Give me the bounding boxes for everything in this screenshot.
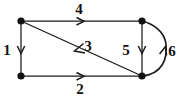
- vertex-bottom-left: [17, 72, 24, 79]
- edge-label-4: 4: [75, 2, 83, 17]
- edge-label-2: 2: [76, 82, 84, 97]
- vertex-top-right: [138, 17, 145, 24]
- edge-label-5: 5: [122, 43, 130, 58]
- vertex-top-left: [17, 17, 24, 24]
- edge-2-bottom-side: [21, 73, 142, 81]
- vertex-bottom-right: [138, 72, 145, 79]
- edge-label-3: 3: [84, 39, 92, 54]
- directed-graph-figure: 1 2 3 4 5 6: [0, 0, 180, 99]
- edge-6-right-arc: [142, 21, 167, 76]
- edge-4-top-side: [21, 18, 142, 26]
- edge-1-left-side: [17, 21, 24, 76]
- edge-label-6: 6: [168, 44, 176, 59]
- edge-5-right-side: [138, 21, 145, 76]
- edge-label-1: 1: [3, 43, 11, 58]
- edge-6-curve: [142, 21, 166, 76]
